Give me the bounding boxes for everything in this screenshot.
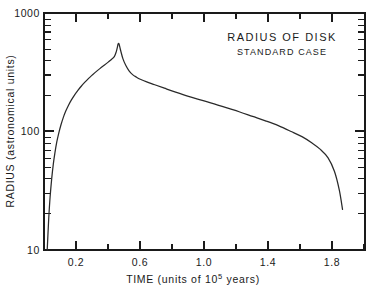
- x-tick-label-4: 1.8: [324, 256, 340, 268]
- chart-title: RADIUS OF DISK: [227, 31, 337, 43]
- y-tick-label-10: 10: [27, 244, 40, 256]
- x-tick-label-2: 1.0: [196, 256, 212, 268]
- chart-subtitle: STANDARD CASE: [237, 47, 327, 57]
- data-curve-radius-of-disk: [47, 43, 342, 250]
- x-axis-title: TIME (units of 105 years): [126, 272, 260, 285]
- x-tick-label-1: 0.6: [132, 256, 148, 268]
- x-axis-title-suffix: years): [223, 273, 260, 285]
- x-tick-label-3: 1.4: [260, 256, 276, 268]
- y-axis-title: RADIUS (astronomical units): [4, 54, 16, 207]
- y-tick-label-1000: 1000: [14, 7, 40, 19]
- y-tick-label-100: 100: [21, 125, 40, 137]
- x-axis-minor-ticks: [108, 244, 364, 250]
- y-axis-minor-ticks: [44, 19, 51, 213]
- x-axis-title-prefix: TIME (units of 10: [126, 273, 218, 285]
- chart-figure: 1000 100 10 0.2 0.6 1.0 1.4 1.8 TIME (un…: [0, 0, 377, 290]
- chart-svg: 1000 100 10 0.2 0.6 1.0 1.4 1.8 TIME (un…: [0, 0, 377, 290]
- x-axis-top-ticks: [76, 13, 332, 22]
- x-axis-major-ticks: [76, 241, 332, 250]
- x-tick-label-0: 0.2: [68, 256, 84, 268]
- y-axis-right-ticks: [355, 13, 365, 250]
